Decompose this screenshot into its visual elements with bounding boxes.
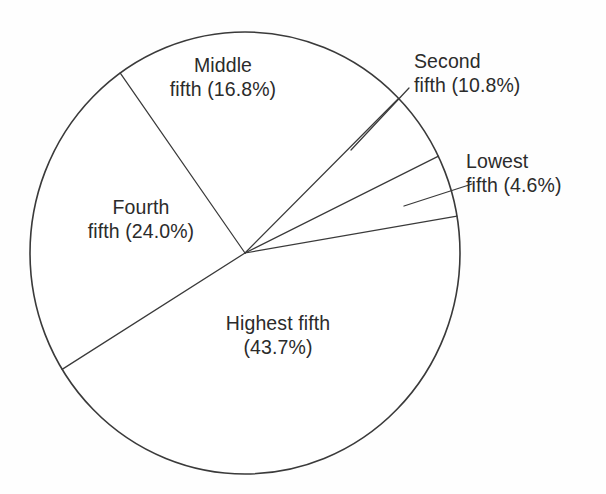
pie-label-highest-fifth-line1: Highest fifth	[185, 312, 371, 336]
pie-chart: Middle fifth (16.8%) Second fifth (10.8%…	[0, 0, 606, 494]
pie-label-fourth-fifth-line2: fifth (24.0%)	[60, 220, 222, 244]
pie-label-fourth-fifth: Fourth fifth (24.0%)	[60, 196, 222, 243]
pie-label-second-fifth-line1: Second	[414, 50, 590, 74]
pie-label-second-fifth: Second fifth (10.8%)	[414, 50, 590, 97]
pie-label-highest-fifth: Highest fifth (43.7%)	[185, 312, 371, 359]
pie-label-lowest-fifth: Lowest fifth (4.6%)	[466, 150, 604, 197]
pie-label-lowest-fifth-line1: Lowest	[466, 150, 604, 174]
pie-label-middle-fifth: Middle fifth (16.8%)	[141, 54, 305, 101]
pie-label-middle-fifth-line2: fifth (16.8%)	[141, 78, 305, 102]
pie-label-middle-fifth-line1: Middle	[141, 54, 305, 78]
pie-label-fourth-fifth-line1: Fourth	[60, 196, 222, 220]
pie-label-highest-fifth-line2: (43.7%)	[185, 336, 371, 360]
pie-label-second-fifth-line2: fifth (10.8%)	[414, 74, 590, 98]
pie-label-lowest-fifth-line2: fifth (4.6%)	[466, 174, 604, 198]
